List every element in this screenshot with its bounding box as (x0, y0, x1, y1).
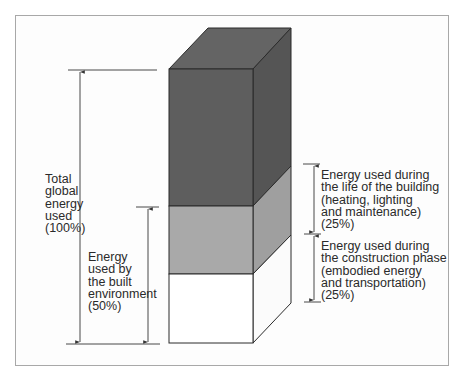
construction-dimension-arrow (304, 236, 321, 302)
built-environment-label: Energy used by the built environment (50… (88, 251, 157, 312)
column-front-light (169, 274, 253, 343)
construction-phase-label: Energy used during the construction phas… (321, 240, 447, 301)
life-dimension-arrow (303, 164, 321, 234)
total-energy-label: Total global energy used (100%) (45, 173, 85, 234)
column-front-dark (169, 69, 253, 206)
column-front-mid (169, 206, 253, 274)
life-of-building-label: Energy used during the life of the build… (321, 169, 439, 230)
